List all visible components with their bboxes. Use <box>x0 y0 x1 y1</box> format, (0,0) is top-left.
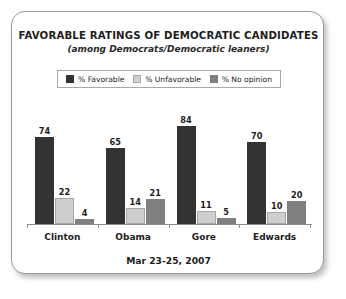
bar-column: 5 <box>217 98 236 224</box>
bar-value-label: 65 <box>110 137 121 147</box>
bar-value-label: 11 <box>200 200 211 210</box>
axis-tick <box>239 224 240 228</box>
bar-value-label: 4 <box>82 208 88 218</box>
bar-column: 20 <box>287 98 306 224</box>
legend-swatch-favorable-icon <box>66 75 74 83</box>
bar-value-label: 84 <box>180 115 191 125</box>
chart-legend: % Favorable % Unfavorable % No opinion <box>57 70 281 88</box>
legend-label-unfavorable: % Unfavorable <box>145 75 201 84</box>
axis-tick <box>310 224 311 228</box>
bar-column: 11 <box>197 98 216 224</box>
bar-value-label: 10 <box>271 201 282 211</box>
chart-footer-date: Mar 23-25, 2007 <box>12 255 325 266</box>
chart-title: FAVORABLE RATINGS OF DEMOCRATIC CANDIDAT… <box>12 30 325 41</box>
bar <box>35 137 54 224</box>
axis-tick <box>169 224 170 228</box>
axis-tick <box>98 224 99 228</box>
bar <box>146 199 165 224</box>
legend-item-no-opinion: % No opinion <box>210 75 272 84</box>
bar-groups: 7422465142184115701020 <box>27 98 310 224</box>
bar-set: 74224 <box>27 98 98 224</box>
bar-group: 84115 <box>169 98 240 224</box>
category-labels: ClintonObamaGoreEdwards <box>27 232 310 242</box>
category-label: Clinton <box>27 232 98 242</box>
bar-group: 651421 <box>98 98 169 224</box>
bar-column: 14 <box>126 98 145 224</box>
category-label: Edwards <box>239 232 310 242</box>
category-label: Gore <box>169 232 240 242</box>
bar <box>126 208 145 224</box>
bar <box>197 211 216 224</box>
bar <box>106 148 125 224</box>
bar-column: 65 <box>106 98 125 224</box>
legend-swatch-no-opinion-icon <box>210 75 218 83</box>
bar-value-label: 5 <box>223 207 229 217</box>
bar-column: 22 <box>55 98 74 224</box>
bar <box>55 198 74 224</box>
bar-column: 10 <box>267 98 286 224</box>
bar-value-label: 20 <box>291 190 302 200</box>
bar-group: 74224 <box>27 98 98 224</box>
bar-column: 84 <box>177 98 196 224</box>
category-label: Obama <box>98 232 169 242</box>
bar-column: 74 <box>35 98 54 224</box>
bar-value-label: 22 <box>59 187 70 197</box>
chart-screenshot: FAVORABLE RATINGS OF DEMOCRATIC CANDIDAT… <box>0 0 346 299</box>
bar-column: 21 <box>146 98 165 224</box>
plot-area: 7422465142184115701020 <box>27 98 310 224</box>
bar-value-label: 14 <box>130 197 141 207</box>
chart-card: FAVORABLE RATINGS OF DEMOCRATIC CANDIDAT… <box>11 11 324 274</box>
legend-item-unfavorable: % Unfavorable <box>133 75 201 84</box>
legend-label-favorable: % Favorable <box>78 75 124 84</box>
bar <box>177 126 196 224</box>
bar-column: 4 <box>75 98 94 224</box>
chart-subtitle: (among Democrats/Democratic leaners) <box>12 44 325 54</box>
bar-value-label: 21 <box>150 188 161 198</box>
bar-set: 84115 <box>169 98 240 224</box>
x-axis-line <box>27 224 312 225</box>
legend-item-favorable: % Favorable <box>66 75 124 84</box>
axis-tick <box>27 224 28 228</box>
bar-group: 701020 <box>239 98 310 224</box>
bar-value-label: 70 <box>251 131 262 141</box>
bar-column: 70 <box>247 98 266 224</box>
legend-swatch-unfavorable-icon <box>133 75 141 83</box>
bar <box>287 201 306 224</box>
bar <box>267 212 286 224</box>
bar <box>247 142 266 224</box>
bar-set: 651421 <box>98 98 169 224</box>
bar-value-label: 74 <box>39 126 50 136</box>
legend-label-no-opinion: % No opinion <box>222 75 272 84</box>
bar-set: 701020 <box>239 98 310 224</box>
